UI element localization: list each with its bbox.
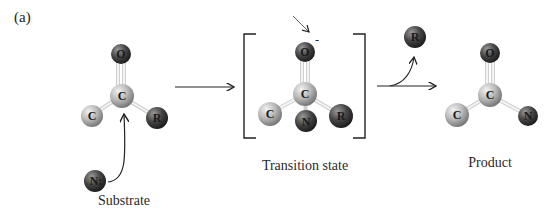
- substrate-molecule: O C R C N: Substrate: [81, 44, 168, 208]
- atom-label-c-center: C: [486, 88, 495, 102]
- atom-label-n: N: [302, 115, 311, 129]
- atom-label-o: O: [485, 46, 494, 60]
- leaving-group-arrow: [390, 57, 414, 86]
- electron-arrow: [293, 16, 309, 32]
- negative-charge: -: [315, 33, 319, 47]
- right-bracket: [353, 34, 365, 138]
- atom-label-n: N:: [90, 174, 103, 188]
- atom-label-c-center: C: [118, 89, 127, 103]
- atom-label-c-left: C: [453, 108, 462, 122]
- atom-label-r: R: [153, 111, 162, 125]
- atom-label-o: O: [300, 45, 309, 59]
- atom-label-r: R: [337, 109, 346, 123]
- transition-state: - O C R N C Transition state: [244, 16, 365, 173]
- atom-label-c-center: C: [301, 87, 310, 101]
- atom-label-r-leaving: R: [411, 30, 420, 44]
- product-molecule: O C N C Product: [445, 43, 538, 170]
- atom-label-c-left: C: [266, 107, 275, 121]
- panel-label: (a): [14, 9, 31, 26]
- atom-label-o: O: [116, 47, 125, 61]
- substrate-caption: Substrate: [98, 193, 150, 208]
- nucleophilic-attack-arrow: [108, 114, 125, 182]
- left-bracket: [244, 34, 256, 138]
- reaction-diagram: (a) O C R C N: Substrate: [0, 0, 556, 208]
- atom-label-c-left: C: [88, 109, 97, 123]
- transition-state-caption: Transition state: [262, 158, 348, 173]
- product-caption: Product: [468, 155, 512, 170]
- atom-label-n: N: [524, 109, 533, 123]
